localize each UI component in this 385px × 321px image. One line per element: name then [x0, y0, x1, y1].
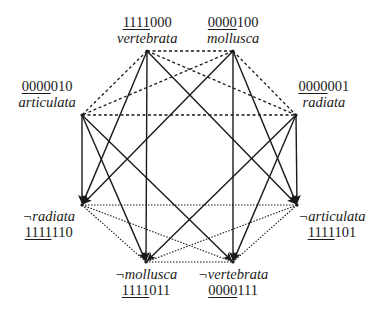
nodes-layer [80, 49, 298, 263]
edge-implies-radiata-to-not-articulata [296, 115, 297, 204]
edge-bottom-cover-not-articulata-to-not-vertebrata [233, 205, 297, 262]
node-code: 0000111 [198, 282, 268, 298]
node-name: ¬vertebrata [198, 266, 268, 282]
node-code: 0000100 [207, 14, 259, 30]
node-point-articulata [80, 113, 83, 116]
node-name: ¬articulata [299, 208, 366, 224]
edge-bottom-cover-not-radiata-to-not-vertebrata [82, 205, 233, 262]
edge-top-disjoint-vertebrata-to-radiata [147, 51, 296, 115]
node-label-not-radiata: ¬radiata1111110 [23, 208, 76, 240]
node-label-mollusca: 0000100mollusca [207, 14, 259, 46]
node-name: radiata [299, 94, 350, 110]
node-code: 1111110 [23, 224, 76, 240]
edge-top-disjoint-mollusca-to-articulata [82, 51, 233, 115]
edge-top-disjoint-mollusca-to-radiata [233, 51, 296, 115]
node-code: 0000001 [299, 78, 350, 94]
edge-implies-radiata-to-not-vertebrata [234, 115, 296, 261]
node-name: ¬mollusca [115, 266, 177, 282]
node-code: 0000010 [19, 78, 76, 94]
node-label-articulata: 0000010articulata [19, 78, 76, 110]
node-name: mollusca [207, 30, 259, 46]
node-label-not-articulata: ¬articulata1111101 [299, 208, 366, 240]
octagon-diagram [0, 0, 385, 321]
edge-implies-articulata-to-not-mollusca [82, 115, 145, 261]
edge-implies-radiata-to-not-mollusca [147, 115, 296, 261]
node-point-not-articulata [295, 203, 298, 206]
edge-implies-mollusca-to-not-radiata [83, 51, 233, 204]
edge-implies-vertebrata-to-not-articulata [147, 51, 296, 204]
edge-top-disjoint-vertebrata-to-articulata [82, 51, 147, 115]
node-point-mollusca [231, 49, 234, 52]
node-point-radiata [294, 113, 297, 116]
node-name: articulata [19, 94, 76, 110]
node-point-not-radiata [80, 203, 83, 206]
node-label-not-mollusca: ¬mollusca1111011 [115, 266, 177, 298]
edges-layer [82, 51, 297, 262]
node-point-not-mollusca [144, 260, 147, 263]
edge-bottom-cover-not-articulata-to-not-mollusca [146, 205, 297, 262]
node-label-vertebrata: 1111000vertebrata [117, 14, 177, 46]
node-point-not-vertebrata [231, 260, 234, 263]
node-label-not-vertebrata: ¬vertebrata0000111 [198, 266, 268, 298]
node-name: ¬radiata [23, 208, 76, 224]
node-label-radiata: 0000001radiata [299, 78, 350, 110]
edge-implies-mollusca-to-not-articulata [233, 51, 296, 204]
edge-implies-vertebrata-to-not-radiata [83, 51, 147, 204]
node-code: 1111000 [117, 14, 177, 30]
node-code: 1111011 [115, 282, 177, 298]
edge-implies-articulata-to-not-vertebrata [82, 115, 232, 261]
edge-bottom-cover-not-radiata-to-not-mollusca [82, 205, 146, 262]
node-point-vertebrata [145, 49, 148, 52]
node-code: 1111101 [299, 224, 366, 240]
node-name: vertebrata [117, 30, 177, 46]
